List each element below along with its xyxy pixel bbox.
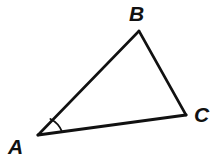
vertex-label-a: A	[8, 136, 23, 157]
vertex-label-c: C	[194, 104, 209, 125]
triangle-figure: A B C	[0, 0, 220, 167]
angle-arc-a	[50, 119, 62, 132]
triangle-side-bc	[139, 31, 186, 115]
triangle-diagram-canvas	[0, 0, 220, 167]
vertex-label-b: B	[129, 3, 144, 24]
triangle-side-ab	[38, 31, 139, 135]
triangle-side-ac	[38, 115, 186, 135]
